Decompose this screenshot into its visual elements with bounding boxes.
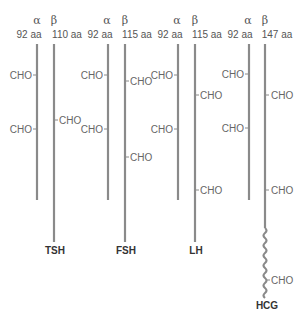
cho-label: CHO — [81, 124, 103, 135]
cho-label: CHO — [130, 152, 152, 163]
alpha-length-label: 92 aa — [16, 29, 41, 40]
cho-label: CHO — [10, 70, 32, 81]
cho-label: CHO — [130, 76, 152, 87]
beta-symbol: β — [192, 14, 198, 27]
cho-label: CHO — [271, 90, 293, 101]
cho-label: CHO — [10, 124, 32, 135]
beta-length-label: 147 aa — [262, 29, 293, 40]
cho-label: CHO — [81, 70, 103, 81]
hormone-fsh: α 92 aa β 115 aa CHO CHO CHO CHO FSH — [81, 14, 153, 256]
alpha-symbol: α — [103, 14, 111, 27]
hormone-name: HCG — [256, 300, 278, 311]
alpha-length-label: 92 aa — [87, 29, 112, 40]
alpha-length-label: 92 aa — [157, 29, 182, 40]
beta-symbol: β — [262, 14, 268, 27]
cho-label: CHO — [200, 185, 222, 196]
beta-length-label: 115 aa — [122, 29, 152, 40]
hormone-tsh: α 92 aa β 110 aa CHO CHO CHO TSH — [10, 14, 83, 256]
cho-label: CHO — [222, 123, 244, 134]
alpha-symbol: α — [33, 14, 41, 27]
hormone-hcg: α 92 aa β 147 aa CHO CHO CHO CHO CHO HCG — [222, 14, 294, 311]
cho-label: CHO — [151, 70, 173, 81]
cho-label: CHO — [59, 115, 81, 126]
beta-length-label: 115 aa — [192, 29, 222, 40]
hormone-name: TSH — [45, 245, 65, 256]
beta-length-label: 110 aa — [52, 29, 82, 40]
cho-label: CHO — [222, 69, 244, 80]
alpha-length-label: 92 aa — [227, 29, 252, 40]
alpha-symbol: α — [244, 14, 252, 27]
cho-label: CHO — [271, 185, 293, 196]
hormone-name: FSH — [116, 245, 136, 256]
hormone-lh: α 92 aa β 115 aa CHO CHO CHO CHO LH — [151, 14, 223, 256]
glycoprotein-hormone-diagram: α 92 aa β 110 aa CHO CHO CHO TSH α 92 aa… — [0, 0, 303, 321]
cho-label: CHO — [271, 275, 293, 286]
beta-c-terminal-extension — [264, 228, 267, 298]
beta-symbol: β — [51, 14, 57, 27]
hormone-name: LH — [189, 245, 202, 256]
beta-symbol: β — [122, 14, 128, 27]
cho-label: CHO — [200, 90, 222, 101]
cho-label: CHO — [151, 124, 173, 135]
alpha-symbol: α — [173, 14, 181, 27]
